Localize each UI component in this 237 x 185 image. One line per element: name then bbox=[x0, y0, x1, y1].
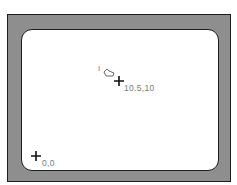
screen-area bbox=[21, 29, 219, 171]
crosshair-icon bbox=[114, 76, 124, 86]
point-label-pointer: 10.5,10 bbox=[124, 83, 154, 93]
ibeam-marker: I bbox=[98, 64, 100, 73]
point-label-origin: 0,0 bbox=[42, 158, 55, 168]
crosshair-icon bbox=[31, 151, 41, 161]
